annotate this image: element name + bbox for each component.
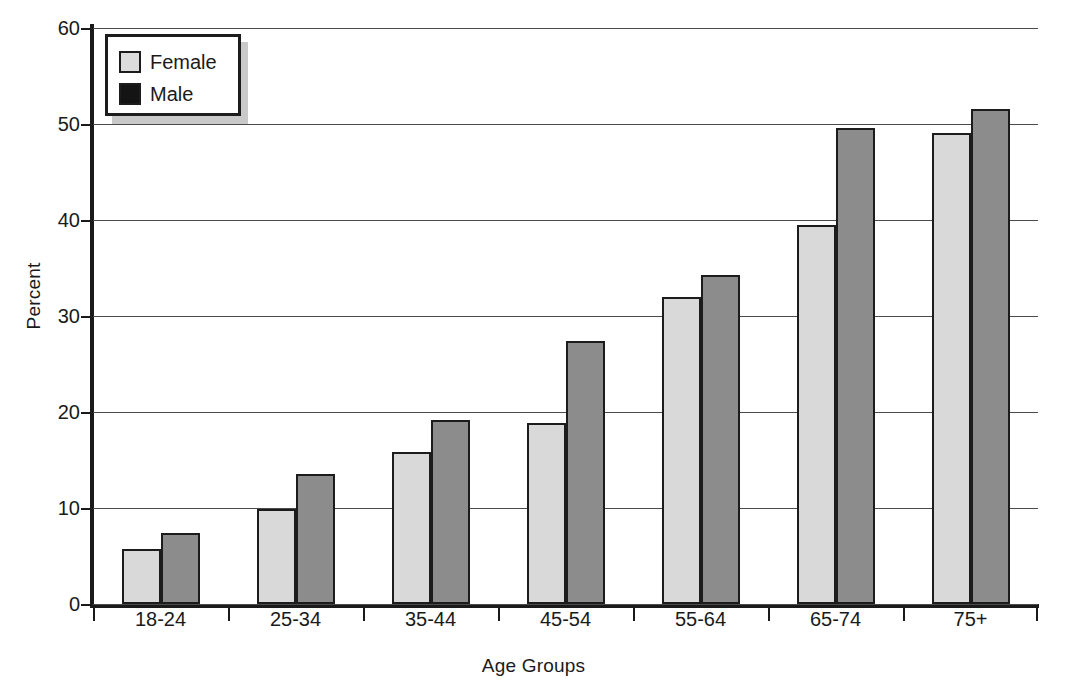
x-tick-mark: [1036, 608, 1038, 621]
y-tick-label: 10: [28, 497, 80, 520]
y-tick-mark: [81, 316, 93, 318]
bar-female-45-54: [527, 423, 566, 604]
bar-chart: Percent Age Groups 0102030405060 FemaleM…: [0, 0, 1067, 697]
y-tick-label: 40: [28, 209, 80, 232]
y-tick-label: 0: [28, 593, 80, 616]
gridline: [93, 28, 1038, 29]
bar-male-55-64: [701, 275, 740, 604]
bar-female-18-24: [122, 549, 161, 604]
bar-male-35-44: [431, 420, 470, 604]
gridline: [93, 124, 1038, 125]
gridline: [93, 316, 1038, 317]
x-tick-label-55-64: 55-64: [675, 608, 726, 631]
x-tick-mark: [633, 608, 635, 621]
legend-item-male: Male: [119, 78, 238, 110]
bar-female-75+: [932, 133, 971, 604]
bar-female-25-34: [257, 509, 296, 604]
y-tick-label: 60: [28, 17, 80, 40]
y-tick-mark: [81, 28, 93, 30]
y-tick-mark: [81, 412, 93, 414]
x-tick-label-18-24: 18-24: [135, 608, 186, 631]
y-tick-label: 50: [28, 113, 80, 136]
gridline: [93, 604, 1038, 605]
x-tick-mark: [363, 608, 365, 621]
y-tick-mark: [81, 124, 93, 126]
bar-male-45-54: [566, 341, 605, 604]
bar-male-75+: [971, 109, 1010, 604]
bar-female-35-44: [392, 452, 431, 604]
y-tick-mark: [81, 220, 93, 222]
y-tick-label: 30: [28, 305, 80, 328]
legend-swatch-icon: [119, 83, 141, 105]
legend-item-female: Female: [119, 46, 238, 78]
chart-legend: FemaleMale: [105, 34, 241, 116]
legend-swatch-icon: [119, 51, 141, 73]
x-tick-mark: [768, 608, 770, 621]
x-tick-mark: [228, 608, 230, 621]
bar-female-65-74: [797, 225, 836, 604]
x-tick-label-45-54: 45-54: [540, 608, 591, 631]
bar-female-55-64: [662, 297, 701, 604]
y-tick-mark: [81, 604, 93, 606]
x-tick-label-25-34: 25-34: [270, 608, 321, 631]
y-axis-tick-labels: 0102030405060: [8, 0, 80, 697]
legend-label: Female: [150, 52, 217, 72]
x-tick-label-35-44: 35-44: [405, 608, 456, 631]
y-tick-label: 20: [28, 401, 80, 424]
x-axis-label: Age Groups: [0, 655, 1067, 677]
legend-label: Male: [150, 84, 193, 104]
y-tick-mark: [81, 508, 93, 510]
x-tick-label-75+: 75+: [954, 608, 988, 631]
gridline: [93, 220, 1038, 221]
x-tick-label-65-74: 65-74: [810, 608, 861, 631]
x-tick-mark: [93, 608, 95, 621]
bar-male-65-74: [836, 128, 875, 604]
x-tick-mark: [903, 608, 905, 621]
bar-male-25-34: [296, 474, 335, 604]
bar-male-18-24: [161, 533, 200, 604]
x-tick-mark: [498, 608, 500, 621]
